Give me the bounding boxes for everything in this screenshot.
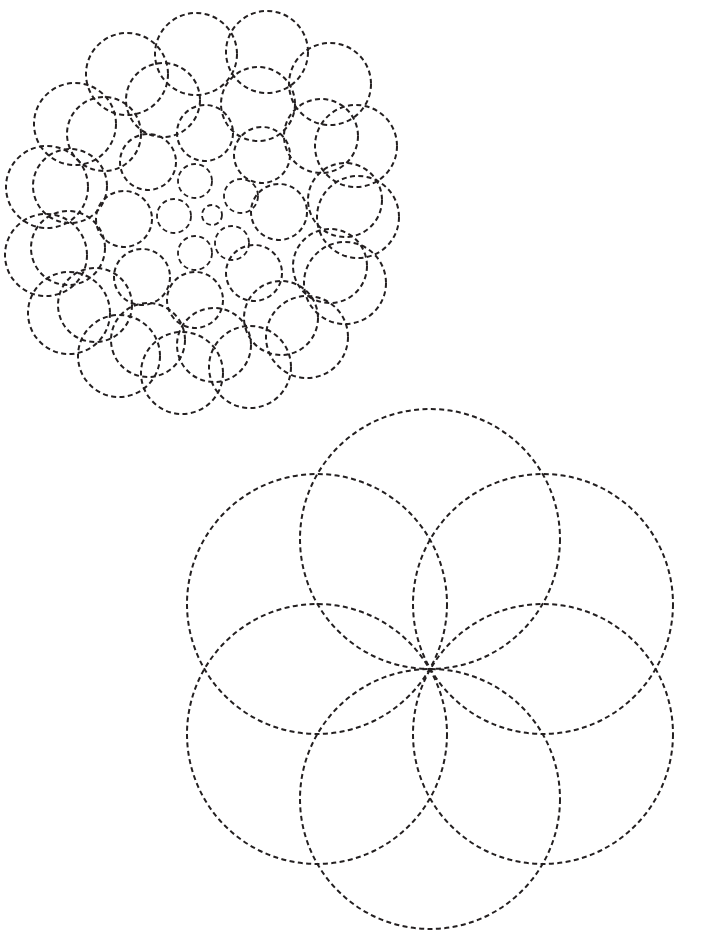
geometric-figures-svg	[0, 0, 711, 943]
page-background	[0, 0, 711, 943]
page-canvas	[0, 0, 711, 943]
